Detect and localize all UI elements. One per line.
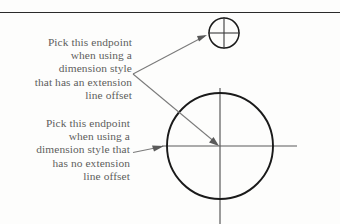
annotation-no-extension-line-offset: Pick this endpoint when using a dimensio… [0,117,130,183]
leader-to-large-circle-center [133,74,216,143]
technical-drawing [0,0,340,224]
annotation-bottom-line-4: has no extension [0,157,130,170]
leader-to-small-circle-arrowhead [197,35,207,42]
annotation-bottom-line-2: when using a [0,130,130,143]
annotation-top-line-5: line offset [0,89,132,102]
annotation-extension-line-offset: Pick this endpoint when using a dimensio… [0,36,132,102]
annotation-top-line-3: dimension style [0,62,132,75]
annotation-top-line-2: when using a [0,49,132,62]
annotation-bottom-line-1: Pick this endpoint [0,117,130,130]
annotation-bottom-line-3: dimension style that [0,143,130,156]
leader-to-small-circle [133,36,205,74]
annotation-top-line-1: Pick this endpoint [0,36,132,49]
figure-canvas: Pick this endpoint when using a dimensio… [0,0,340,224]
annotation-bottom-line-5: line offset [0,170,130,183]
annotation-top-line-4: that has an extension [0,76,132,89]
leader-to-large-circle-edge-arrowhead [152,146,164,152]
leader-lines-group [133,35,219,153]
small-circle-group [208,17,240,49]
large-circle-group [162,88,297,224]
